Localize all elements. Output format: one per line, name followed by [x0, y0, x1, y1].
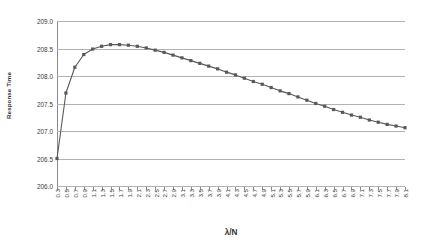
x-tick-label-text: 5.5	[286, 189, 293, 198]
data-point-marker	[91, 47, 94, 50]
data-point-marker	[64, 91, 67, 94]
data-point-marker	[127, 44, 130, 47]
x-tick-label-text: 7.9	[393, 189, 400, 198]
x-tick-label-text: 5.3	[277, 189, 284, 198]
x-tick-label-text: 4.7	[250, 189, 257, 198]
y-tick-label: 206.5	[37, 155, 53, 162]
x-tick-label-text: 4.9	[259, 189, 266, 198]
data-point-marker	[287, 92, 290, 95]
data-point-marker	[261, 83, 264, 86]
data-point-marker	[198, 62, 201, 65]
y-tick-label: 208.0	[37, 73, 53, 80]
data-point-marker	[350, 113, 353, 116]
x-tick-label-text: 1.7	[116, 189, 123, 198]
x-tick-label-text: 8.1	[402, 189, 409, 198]
x-tick-label-text: 3.7	[206, 189, 213, 198]
data-point-marker	[394, 124, 397, 127]
series-line	[57, 45, 405, 159]
x-tick-label-text: 7.3	[366, 189, 373, 198]
x-tick-label-text: 0.3	[54, 189, 61, 198]
data-point-marker	[243, 77, 246, 80]
series-response-time	[57, 21, 405, 186]
x-tick-label-text: 4.5	[241, 189, 248, 198]
data-point-marker	[109, 43, 112, 46]
x-tick-label-text: 5.1	[268, 189, 275, 198]
x-tick-label-text: 1.3	[99, 189, 106, 198]
data-point-marker	[305, 99, 308, 102]
data-point-marker	[216, 67, 219, 70]
x-tick-label-text: 1.9	[125, 189, 132, 198]
y-axis-title-text: Response Time	[5, 72, 12, 119]
data-point-marker	[162, 51, 165, 54]
x-tick-label-text: 7.7	[384, 189, 391, 198]
data-point-marker	[252, 80, 255, 83]
series-markers	[55, 43, 406, 160]
y-tick-label: 208.5	[37, 45, 53, 52]
data-point-marker	[82, 53, 85, 56]
data-point-marker	[359, 116, 362, 119]
data-point-marker	[270, 86, 273, 89]
y-tick-label: 206.0	[37, 183, 53, 190]
x-tick-label-text: 5.7	[295, 189, 302, 198]
y-tick-label: 207.5	[37, 100, 53, 107]
x-tick-label-text: 0.7	[72, 189, 79, 198]
plot-area	[57, 21, 405, 186]
x-tick-label-text: 6.3	[322, 189, 329, 198]
data-point-marker	[323, 105, 326, 108]
x-tick-label-text: 6.7	[340, 189, 347, 198]
data-point-marker	[403, 126, 406, 129]
data-point-marker	[154, 49, 157, 52]
data-point-marker	[145, 46, 148, 49]
data-point-marker	[296, 95, 299, 98]
x-tick-label-text: 2.5	[152, 189, 159, 198]
data-point-marker	[136, 45, 139, 48]
x-tick-label-text: 0.9	[81, 189, 88, 198]
data-point-marker	[207, 65, 210, 68]
data-point-marker	[234, 73, 237, 76]
y-tick-label: 209.0	[37, 18, 53, 25]
x-tick-label-text: 2.9	[170, 189, 177, 198]
y-axis-tick-labels: 209.0208.5208.0207.5207.0206.5206.0	[16, 0, 56, 190]
data-point-marker	[73, 66, 76, 69]
x-tick-label-text: 3.5	[197, 189, 204, 198]
data-point-marker	[314, 102, 317, 105]
x-tick-label-text: 4.3	[232, 189, 239, 198]
data-point-marker	[332, 108, 335, 111]
y-axis-title: Response Time	[0, 0, 16, 190]
x-tick-label-text: 4.1	[224, 189, 231, 198]
x-tick-label-text: 6.5	[331, 189, 338, 198]
data-point-marker	[180, 56, 183, 59]
x-tick-label-text: 7.1	[357, 189, 364, 198]
chart-container: Response Time 209.0208.5208.0207.5207.02…	[0, 0, 425, 248]
data-point-marker	[189, 59, 192, 62]
data-point-marker	[377, 121, 380, 124]
x-tick-label-text: 2.1	[134, 189, 141, 198]
x-tick-label-text: 3.3	[188, 189, 195, 198]
x-tick-label-text: 3.1	[179, 189, 186, 198]
data-point-marker	[55, 157, 58, 160]
x-tick-label-text: 3.9	[215, 189, 222, 198]
x-tick-label-text: 5.9	[304, 189, 311, 198]
y-tick-label: 207.0	[37, 128, 53, 135]
x-tick-label-text: 6.9	[348, 189, 355, 198]
data-point-marker	[341, 111, 344, 114]
data-point-marker	[368, 118, 371, 121]
x-axis-title: λ/N	[57, 228, 405, 237]
data-point-marker	[171, 54, 174, 57]
data-point-marker	[225, 71, 228, 74]
data-point-marker	[100, 45, 103, 48]
x-tick-label-text: 7.5	[375, 189, 382, 198]
x-axis-tick-labels: 0.30.50.70.91.11.31.51.71.92.12.32.52.72…	[57, 187, 405, 225]
data-point-marker	[386, 123, 389, 126]
data-point-marker	[278, 89, 281, 92]
data-point-marker	[118, 43, 121, 46]
x-tick-label-text: 1.1	[90, 189, 97, 198]
x-tick-label-text: 1.5	[108, 189, 115, 198]
x-tick-label-text: 6.1	[313, 189, 320, 198]
x-tick-label-text: 2.7	[161, 189, 168, 198]
x-tick-label-text: 0.5	[63, 189, 70, 198]
x-tick-label-text: 2.3	[143, 189, 150, 198]
